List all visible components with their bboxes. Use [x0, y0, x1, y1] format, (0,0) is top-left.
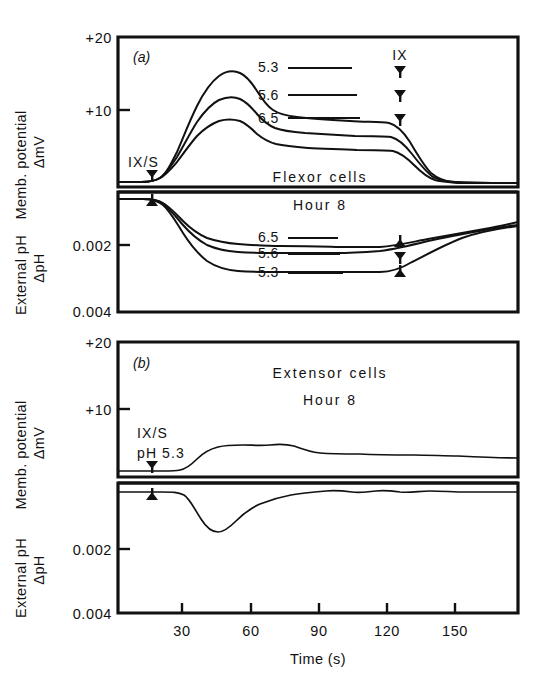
- xtick-label-150: 150: [442, 623, 468, 639]
- figure-root: +20 +10 0.002 0.004 Memb. potential ΔmV …: [0, 0, 545, 685]
- panel-b-ph-axis-title-line1: External pH: [13, 538, 29, 618]
- panel-b: +20 +10 0.002 0.004 Memb. potential ΔmV …: [13, 335, 518, 622]
- panel-a-mv-frame: [118, 37, 518, 187]
- panel-a-ph-axis-title-line2: ΔpH: [31, 253, 47, 282]
- panel-a-mv-curve-label-65: 6.5: [258, 110, 279, 126]
- figure-svg: +20 +10 0.002 0.004 Memb. potential ΔmV …: [0, 0, 545, 685]
- panel-a-stimulus-label-ixs: IX/S: [128, 154, 159, 170]
- panel-a-ytick-label-20: +20: [86, 30, 112, 46]
- x-axis-title: Time (s): [290, 651, 346, 667]
- panel-a-mv-axis-title-line1: Memb. potential: [13, 110, 29, 219]
- panel-b-title-extensor-cells: Extensor cells: [272, 365, 387, 381]
- panel-a-ytick-label-0004: 0.004: [73, 304, 112, 320]
- panel-b-ph-marker-ixs: [146, 488, 158, 500]
- panel-a-title-hour: Hour 8: [293, 197, 347, 213]
- panel-b-ytick-label-20: +20: [86, 335, 112, 351]
- panel-a-title-flexor-cells: Flexor cells: [273, 169, 368, 185]
- panel-b-stimulus-label-line1: IX/S: [137, 425, 168, 441]
- panel-a-ytick-label-10: +10: [86, 103, 112, 119]
- panel-a-ph-curve-label-56: 5.6: [258, 245, 279, 261]
- panel-a-mv-marker-ix-65: [394, 114, 406, 126]
- panel-b-ytick-label-10: +10: [86, 402, 112, 418]
- xtick-label-90: 90: [310, 623, 327, 639]
- xtick-label-30: 30: [173, 623, 190, 639]
- panel-a-ytick-label-0002: 0.002: [73, 238, 112, 254]
- panel-b-ph-frame: [118, 483, 518, 613]
- panel-b-mv-axis-title-line1: Memb. potential: [13, 400, 29, 509]
- panel-b-mv-axis-title-line2: ΔmV: [31, 427, 47, 460]
- panel-a-ph-marker-ix-mid: [394, 252, 406, 264]
- panel-b-ytick-label-0002: 0.002: [73, 542, 112, 558]
- xtick-label-120: 120: [374, 623, 400, 639]
- panel-a-mv-axis-title-line2: ΔmV: [31, 136, 47, 169]
- panel-a-mv-marker-label-ix: IX: [392, 47, 407, 63]
- panel-b-trace-ph: [118, 491, 518, 532]
- panel-a: +20 +10 0.002 0.004 Memb. potential ΔmV …: [13, 30, 518, 320]
- panel-a-ph-axis-title-line1: External pH: [13, 235, 29, 315]
- panel-b-stimulus-label-line2: pH 5.3: [137, 445, 185, 461]
- panel-b-ph-axis-title-line2: ΔpH: [31, 555, 47, 584]
- panel-a-trace-53: [118, 71, 518, 183]
- panel-a-mv-marker-ix-53: [394, 66, 406, 78]
- panel-a-mv-curve-label-53: 5.3: [258, 59, 279, 75]
- panel-b-title-hour: Hour 8: [303, 392, 357, 408]
- panel-b-letter: (b): [133, 355, 150, 371]
- panel-a-ph-curve-label-53: 5.3: [258, 264, 279, 280]
- panel-a-mv-marker-ix-56: [394, 90, 406, 102]
- panel-a-letter: (a): [133, 49, 150, 65]
- panel-a-ph-curve-label-65: 6.5: [258, 229, 279, 245]
- panel-a-mv-curve-label-56: 5.6: [258, 87, 279, 103]
- xtick-label-60: 60: [242, 623, 259, 639]
- panel-a-ph-marker-ix-upper: [394, 235, 406, 247]
- panel-b-ytick-label-0004: 0.004: [73, 606, 112, 622]
